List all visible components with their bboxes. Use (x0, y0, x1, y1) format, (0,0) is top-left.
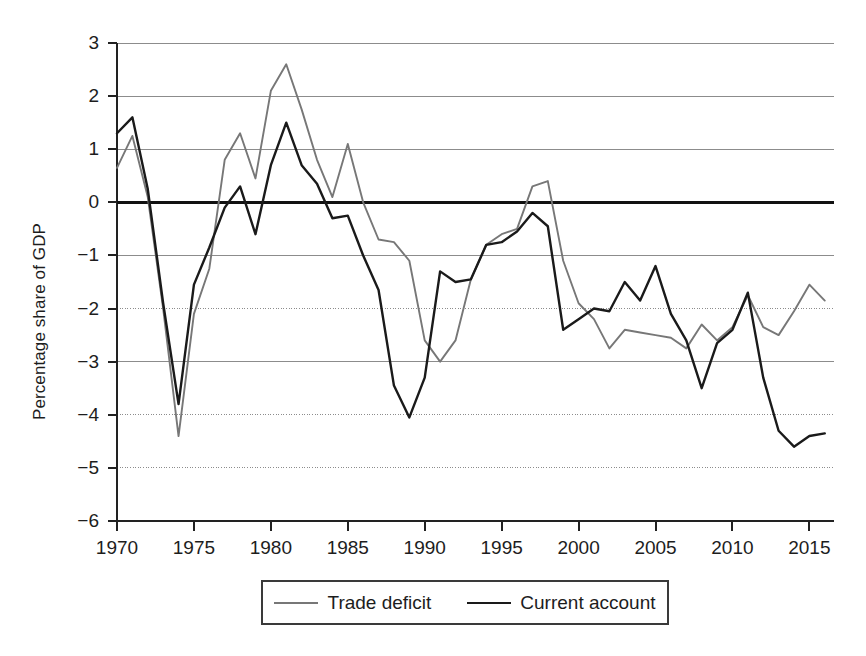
y-tick-label: 1 (59, 138, 99, 160)
x-tick-label: 1990 (404, 537, 446, 559)
y-tick-label: 0 (59, 191, 99, 213)
x-tick-label: 2005 (634, 537, 676, 559)
y-tick-label: −2 (59, 298, 99, 320)
legend-line-swatch (274, 602, 318, 604)
gridlines (117, 43, 834, 468)
chart-legend: Trade deficitCurrent account (261, 580, 669, 625)
x-tick-label: 1975 (173, 537, 215, 559)
y-tick-label: −1 (59, 244, 99, 266)
series-line-trade-deficit (117, 64, 825, 436)
axis-lines (108, 43, 834, 531)
y-tick-label: −4 (59, 404, 99, 426)
y-tick-label: 3 (59, 32, 99, 54)
x-tick-label: 1995 (481, 537, 523, 559)
legend-label: Current account (520, 592, 655, 614)
x-tick-label: 1980 (250, 537, 292, 559)
y-axis-title: Percentage share of GDP (30, 223, 50, 420)
x-tick-label: 2000 (557, 537, 599, 559)
legend-line-swatch (467, 602, 511, 604)
y-tick-label: −3 (59, 351, 99, 373)
legend-item[interactable]: Trade deficit (274, 592, 431, 614)
legend-item[interactable]: Current account (467, 592, 655, 614)
y-tick-label: 2 (59, 85, 99, 107)
y-tick-label: −5 (59, 457, 99, 479)
x-tick-label: 2010 (711, 537, 753, 559)
x-tick-label: 2015 (788, 537, 830, 559)
legend-label: Trade deficit (327, 592, 431, 614)
y-tick-label: −6 (59, 510, 99, 532)
x-tick-label: 1985 (327, 537, 369, 559)
x-tick-label: 1970 (96, 537, 138, 559)
chart-container: Percentage share of GDP 3210−1−2−3−4−5−6… (0, 0, 866, 656)
